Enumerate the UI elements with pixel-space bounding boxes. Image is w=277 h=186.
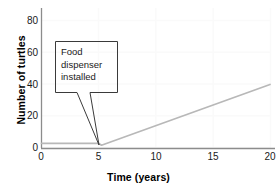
x-axis-title: Time (years) [0,171,277,183]
callout-text-line-3: installed [61,71,96,82]
x-tick-label-20: 20 [259,151,277,162]
x-tick-label-0: 0 [30,151,52,162]
callout-text-line-2: dispenser [61,59,102,70]
x-tick-label-5: 5 [88,151,110,162]
x-tick-label-15: 15 [202,151,224,162]
y-axis-title: Number of turtles [15,13,27,147]
callout-text-line-1: Food [61,46,83,57]
turtle-population-line-chart: 80 60 40 20 0 0 5 10 15 20 Food dispense… [0,0,277,186]
x-tick-label-10: 10 [145,151,167,162]
callout-leader-lines [77,93,99,146]
